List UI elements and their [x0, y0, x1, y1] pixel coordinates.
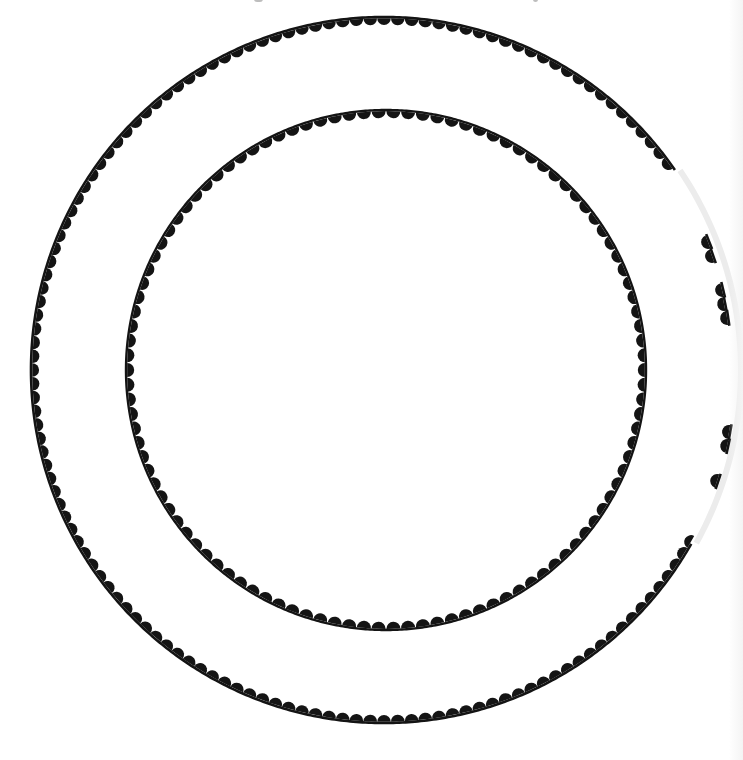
scallop — [33, 336, 40, 350]
inner-ring — [126, 110, 646, 630]
scallop — [127, 378, 134, 392]
scallop — [363, 18, 377, 25]
scallop — [386, 622, 400, 629]
scalloped-circle-template — [0, 0, 743, 760]
scallop — [405, 19, 419, 26]
scallop — [386, 111, 400, 118]
scallop — [401, 621, 415, 629]
scallop — [363, 715, 377, 722]
scallop — [638, 363, 645, 377]
scallop — [32, 349, 39, 363]
scallop — [377, 715, 391, 722]
scallop — [391, 715, 405, 722]
scallop — [638, 378, 645, 392]
scallop — [33, 391, 40, 405]
rings-group — [31, 17, 694, 723]
scallop — [350, 19, 364, 26]
scallop — [377, 18, 391, 25]
scallop — [372, 622, 386, 629]
scallop — [401, 112, 415, 120]
scallop — [32, 377, 39, 391]
scallop — [32, 363, 39, 377]
scallop — [372, 111, 386, 118]
scallop — [127, 363, 134, 377]
scallop — [357, 112, 371, 120]
scallop — [391, 18, 405, 25]
scallop — [638, 348, 645, 362]
paper-edge-shadow — [729, 0, 743, 760]
scallop — [127, 348, 134, 362]
scallop — [405, 714, 419, 721]
scallop — [350, 714, 364, 721]
scallop — [357, 621, 371, 629]
